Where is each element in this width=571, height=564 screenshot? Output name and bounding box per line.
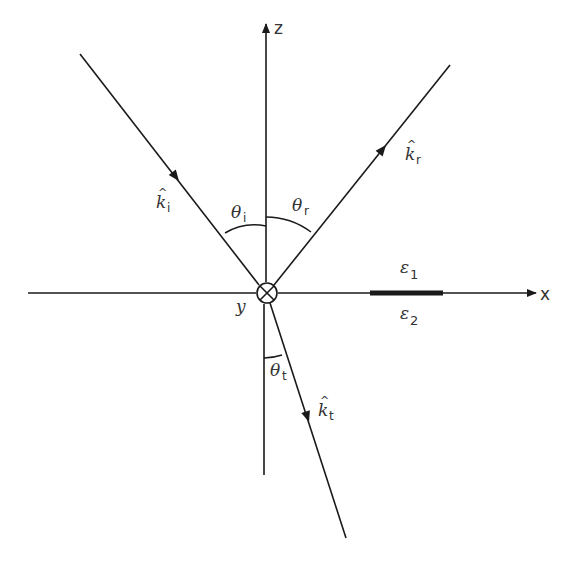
k-transmitted-label: k ^ t (318, 394, 334, 423)
z-axis (264, 24, 266, 475)
transmitted-ray (270, 303, 346, 538)
z-axis-label: z (274, 18, 283, 38)
svg-text:θ: θ (270, 360, 280, 380)
theta-t-arc (264, 355, 282, 358)
svg-text:i: i (167, 201, 170, 215)
svg-text:^: ^ (320, 394, 329, 407)
transmitted-arrow-icon (301, 410, 313, 423)
svg-text:^: ^ (407, 138, 416, 151)
svg-text:θ: θ (231, 202, 241, 222)
svg-text:^: ^ (158, 186, 167, 199)
svg-text:t: t (282, 369, 287, 383)
incident-ray (80, 54, 259, 285)
svg-text:r: r (416, 153, 421, 167)
y-into-page-icon (257, 283, 277, 303)
diagram-canvas: z x y k ^ i k ^ r k ^ t θ i θ r θ t ε 1 … (0, 0, 571, 564)
theta-r-arc (266, 217, 311, 232)
y-axis-label: y (235, 296, 246, 316)
theta-r-label: θ r (292, 195, 309, 218)
svg-text:ε: ε (400, 303, 409, 323)
k-incident-label: k ^ i (156, 186, 170, 215)
svg-text:t: t (329, 409, 334, 423)
theta-i-arc (225, 225, 266, 233)
epsilon-1-label: ε 1 (400, 257, 418, 282)
svg-text:i: i (243, 211, 246, 225)
svg-text:1: 1 (410, 267, 418, 282)
theta-t-label: θ t (270, 360, 287, 383)
theta-i-label: θ i (231, 202, 246, 225)
reflected-ray (274, 65, 450, 285)
k-reflected-label: k ^ r (405, 138, 421, 167)
svg-text:r: r (304, 204, 309, 218)
svg-text:ε: ε (400, 257, 409, 277)
epsilon-2-label: ε 2 (400, 303, 418, 328)
svg-text:θ: θ (292, 195, 302, 215)
svg-text:2: 2 (410, 313, 418, 328)
x-axis-label: x (540, 284, 550, 304)
